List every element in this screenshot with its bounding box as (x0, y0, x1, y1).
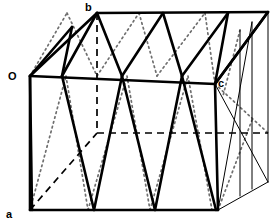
dotted-line-5 (157, 13, 205, 76)
edge-b-to-top-back-right (97, 12, 268, 13)
right-vertical-c (215, 84, 218, 210)
dotted-line-14 (215, 84, 268, 133)
right-diag-1 (215, 12, 268, 84)
dotted-line-1 (30, 13, 67, 76)
thin-edge-bottom-far (218, 182, 268, 210)
label-b: b (85, 1, 92, 13)
top-zigzag-4 (97, 13, 122, 76)
front-zigzag-6 (182, 76, 216, 210)
figure-container: O a b c (0, 0, 280, 223)
label-c: c (218, 77, 224, 89)
front-zigzag-5 (155, 76, 182, 210)
top-zigzag-6 (163, 13, 182, 76)
dotted-line-6 (205, 13, 215, 84)
label-O: O (8, 70, 17, 82)
parallelepiped-diagram: O a b c (0, 0, 280, 223)
front-face-triangulation (30, 76, 216, 210)
front-zigzag-4 (122, 76, 155, 210)
front-zigzag-3 (94, 76, 122, 210)
label-a: a (6, 208, 13, 220)
